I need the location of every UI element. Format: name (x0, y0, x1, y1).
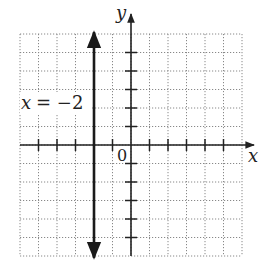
coordinate-plane: x y 0 x = −2 (0, 0, 266, 265)
y-axis-label: y (115, 2, 127, 23)
line-equation-value: = −2 (36, 92, 83, 113)
x-axis-label: x (248, 145, 258, 166)
origin-label: 0 (117, 146, 127, 165)
line-equation-label: x = −2 (20, 92, 92, 114)
line-equation-var: x (21, 92, 31, 113)
